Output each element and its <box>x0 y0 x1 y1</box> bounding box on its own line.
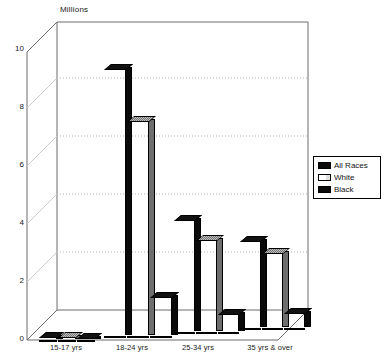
bar-face <box>218 332 239 334</box>
y-axis-title: Millions <box>60 5 88 14</box>
legend-label-white: White <box>334 173 354 182</box>
bar-white-35-over <box>262 254 283 330</box>
legend-item-white: White <box>318 172 375 183</box>
y-tick-10: 10 <box>2 44 24 53</box>
bar-face <box>196 332 217 334</box>
bar-face <box>39 340 57 342</box>
bar-face <box>150 336 172 338</box>
y-tick-2: 2 <box>2 276 24 285</box>
bar-face <box>174 332 195 334</box>
legend-swatch-all-races-icon <box>318 162 331 169</box>
bar-white-15-17 <box>58 338 76 342</box>
legend-item-black: Black <box>318 184 375 195</box>
chart-legend: All Races White Black <box>313 156 381 199</box>
bar-black-35-over <box>284 314 305 330</box>
bar-all-races-35-over <box>240 242 261 330</box>
bar-all-races-15-17 <box>39 338 57 342</box>
bar-face <box>284 328 305 330</box>
legend-swatch-black-icon <box>318 186 331 193</box>
legend-label-black: Black <box>334 185 354 194</box>
legend-label-all-races: All Races <box>334 161 368 170</box>
bar-face <box>240 328 261 330</box>
legend-swatch-white-icon <box>318 174 331 181</box>
bar-white-18-24 <box>127 122 149 338</box>
y-tick-0: 0 <box>2 334 24 343</box>
x-tick-35-over: 35 yrs & over <box>222 343 318 352</box>
y-tick-6: 6 <box>2 160 24 169</box>
y-tick-4: 4 <box>2 218 24 227</box>
bar-face <box>262 328 283 330</box>
bar-black-25-34 <box>218 315 239 334</box>
bar-face <box>58 340 76 342</box>
bar-face <box>127 336 149 338</box>
y-tick-8: 8 <box>2 102 24 111</box>
bar-chart: Millions 0 2 4 6 8 10 <box>0 0 391 356</box>
bar-black-18-24 <box>150 298 172 338</box>
bar-face <box>77 340 95 342</box>
bar-white-25-34 <box>196 241 217 334</box>
bar-face <box>104 336 126 338</box>
bar-black-15-17 <box>77 339 95 342</box>
legend-item-all-races: All Races <box>318 160 375 171</box>
bar-all-races-25-34 <box>174 221 195 334</box>
bar-all-races-18-24 <box>104 70 126 338</box>
